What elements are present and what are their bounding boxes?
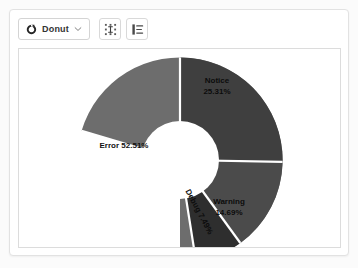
slice-label-notice-value: 25.31% <box>203 87 230 96</box>
screenshot-root: Donut <box>0 0 358 268</box>
slice-label-warning-value: 14.69% <box>215 208 242 217</box>
donut-chart[interactable]: Notice 25.31% Warning 14.69% Debug 7.49%… <box>77 57 283 247</box>
chart-toolbar: Donut <box>10 10 348 48</box>
slice-label-error: Error 52.51% <box>99 141 148 150</box>
toolbar-button-group: Donut <box>18 18 148 40</box>
legend-list-icon <box>131 23 144 36</box>
chart-type-dropdown[interactable]: Donut <box>18 18 90 40</box>
chart-type-label: Donut <box>42 25 69 34</box>
resize-chart-button[interactable] <box>99 18 121 40</box>
donut-hole <box>141 121 219 199</box>
slice-label-warning-name: Warning <box>213 197 245 206</box>
toggle-legend-button[interactable] <box>126 18 148 40</box>
chart-card: Donut <box>9 9 349 256</box>
donut-icon <box>26 24 37 35</box>
chart-panel: Notice 25.31% Warning 14.69% Debug 7.49%… <box>18 48 341 248</box>
slice-label-notice-name: Notice <box>204 76 229 85</box>
chevron-down-icon <box>74 25 82 33</box>
resize-handles-icon <box>104 23 117 36</box>
chart-clip: Notice 25.31% Warning 14.69% Debug 7.49%… <box>19 49 340 247</box>
